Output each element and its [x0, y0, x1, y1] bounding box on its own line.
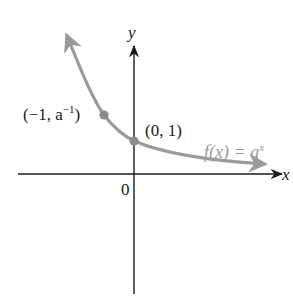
function-label-exponent: x: [259, 141, 264, 153]
point-neg1-label-suffix: ): [75, 105, 81, 124]
y-axis-label: y: [128, 24, 136, 41]
exponential-graph: y x 0 (−1, a−1) (0, 1) f(x) = ax: [0, 0, 293, 300]
point-neg1-label-exponent: −1: [63, 103, 75, 115]
point-neg1: [99, 110, 108, 119]
x-axis-label: x: [282, 166, 290, 183]
point-0-1: [129, 136, 138, 145]
point-neg1-label-prefix: (−1, a: [23, 105, 63, 124]
point-neg1-label: (−1, a−1): [23, 106, 80, 123]
point-0-1-label: (0, 1): [145, 122, 182, 139]
function-label: f(x) = ax: [204, 143, 264, 161]
function-label-prefix: f(x) = a: [204, 142, 259, 162]
origin-label: 0: [121, 181, 130, 198]
